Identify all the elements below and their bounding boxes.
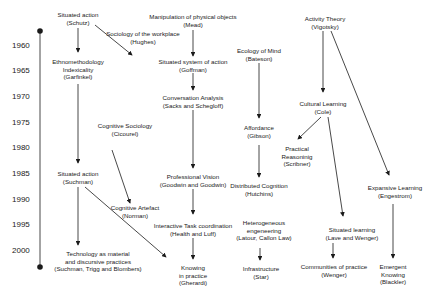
year-label: 1965 <box>12 66 30 75</box>
node-mead: Manipulation of physical objects(Mead) <box>149 13 236 28</box>
node-cole: Cultural Learning(Cole) <box>299 100 346 115</box>
timeline-end-dot <box>37 264 43 270</box>
node-blackler: EmergentKnowing(Blackler) <box>380 263 407 286</box>
node-schutz: Situated action(Schutz) <box>58 11 99 26</box>
year-label: 1990 <box>12 195 30 204</box>
node-suchman: Situated action(Suchman) <box>58 170 99 185</box>
year-label: 1995 <box>12 220 30 229</box>
node-vigotsky: Activity Theory(Vigotsky) <box>305 15 345 30</box>
node-cicourel: Cognitive Sociology(Cicourel) <box>98 122 152 137</box>
node-bateson: Ecology of Mind(Bateson) <box>237 47 281 62</box>
year-label: 1975 <box>12 118 30 127</box>
year-label: 1970 <box>12 92 30 101</box>
node-wenger: Communities of practice(Wenger) <box>301 263 367 278</box>
node-suchman-trigg-blombers: Technology as materialand discursive pra… <box>54 250 141 273</box>
year-label: 2000 <box>12 246 30 255</box>
node-goffman: Situated system of action(Goffman) <box>158 58 227 73</box>
node-lave: Situated learning(Lave and Wenger) <box>326 226 379 241</box>
node-gherardi: Knowingin practice(Gherardi) <box>179 264 207 287</box>
node-engestrom: Expansive Learning(Engestrom) <box>368 184 422 199</box>
year-label: 1980 <box>12 143 30 152</box>
year-label: 1985 <box>12 169 30 178</box>
node-star: Infrastructure(Star) <box>243 265 279 280</box>
node-hutchins: Distributed Cognition(Hutchins) <box>230 182 287 197</box>
node-garfinkel: EthnomethodologyIndexicality(Garfinkel) <box>52 58 104 81</box>
timeline-start-dot <box>37 28 43 34</box>
node-norman: Cognitive Artefact(Norman) <box>111 204 160 219</box>
node-hughes: Sociology of the workplace(Hughes) <box>106 30 180 45</box>
year-label: 1960 <box>12 41 30 50</box>
node-gibson: Affordance(Gibson) <box>244 124 274 139</box>
node-sacks: Conversation Analysis(Sacks and Scheglof… <box>163 94 224 109</box>
node-heath: Interactive Task coordination(Health and… <box>154 222 232 237</box>
node-latour: Heterogeneousengeneering(Latour, Callon … <box>236 219 291 242</box>
node-goodwin: Professional Vision(Goodwin and Goodwin) <box>160 173 227 188</box>
node-scribner: PracticalReasoninig(Scribner) <box>282 145 313 168</box>
practice-theory-timeline-diagram: 1960 1965 1970 1975 1980 1985 1990 1995 … <box>0 0 433 298</box>
